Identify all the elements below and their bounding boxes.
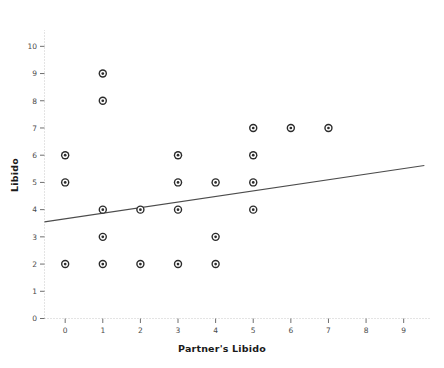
data-point: [249, 151, 257, 159]
y-tick-label: 4: [32, 205, 37, 214]
scatter-plot-figure: 0123456789012345678910 Partner's Libido …: [0, 0, 444, 368]
data-point: [136, 260, 144, 268]
y-tick-label: 1: [32, 287, 37, 296]
y-axis-title: Libido: [9, 158, 20, 192]
x-tick-label: 5: [251, 326, 256, 335]
y-tick-label: 9: [32, 69, 37, 78]
y-tick-label: 8: [32, 97, 37, 106]
data-point: [249, 205, 257, 213]
data-point: [211, 233, 219, 241]
data-point: [99, 69, 107, 77]
y-tick-label: 10: [27, 42, 37, 51]
x-tick-label: 0: [63, 326, 68, 335]
x-tick-label: 4: [213, 326, 218, 335]
data-point: [324, 124, 332, 132]
tick-labels-group: 0123456789012345678910: [27, 42, 406, 334]
data-point: [136, 205, 144, 213]
data-points-group: [61, 69, 333, 268]
data-point: [211, 178, 219, 186]
data-point: [174, 260, 182, 268]
data-point: [211, 260, 219, 268]
y-tick-label: 6: [32, 151, 37, 160]
data-point: [174, 178, 182, 186]
x-axis-title: Partner's Libido: [178, 343, 266, 354]
data-point: [174, 205, 182, 213]
data-point: [287, 124, 295, 132]
data-point: [61, 260, 69, 268]
x-tick-label: 2: [138, 326, 143, 335]
data-point: [99, 260, 107, 268]
data-point: [99, 205, 107, 213]
y-tick-label: 0: [32, 314, 37, 323]
x-tick-label: 6: [288, 326, 293, 335]
y-tick-label: 5: [32, 178, 37, 187]
data-point: [174, 151, 182, 159]
ticks-group: [40, 46, 404, 323]
y-tick-label: 7: [32, 124, 37, 133]
x-tick-label: 7: [326, 326, 331, 335]
x-tick-label: 9: [401, 326, 406, 335]
data-point: [249, 178, 257, 186]
y-tick-label: 3: [32, 233, 37, 242]
data-point: [249, 124, 257, 132]
plot-canvas: 0123456789012345678910 Partner's Libido …: [0, 0, 444, 368]
data-point: [99, 233, 107, 241]
data-point: [61, 151, 69, 159]
x-tick-label: 1: [100, 326, 105, 335]
x-tick-label: 8: [364, 326, 369, 335]
data-point: [61, 178, 69, 186]
data-point: [99, 97, 107, 105]
y-tick-label: 2: [32, 260, 37, 269]
x-tick-label: 3: [176, 326, 181, 335]
